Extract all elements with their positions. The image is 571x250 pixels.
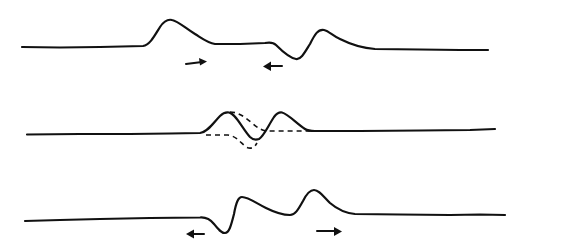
row-overlap — [27, 112, 495, 148]
arrow-left-icon — [263, 62, 282, 72]
resultant-wave — [27, 112, 495, 139]
diagram-canvas — [0, 0, 571, 250]
arrow-right-icon — [186, 58, 207, 66]
row-before — [22, 20, 488, 71]
row-after — [25, 190, 505, 239]
arrow-right-icon — [317, 227, 342, 236]
wave-superposition-diagram: Three stages of two wave pulses on a str… — [0, 0, 571, 250]
string-wave-after — [25, 190, 505, 233]
string-wave-before — [22, 20, 488, 59]
arrow-left-icon — [186, 230, 204, 239]
